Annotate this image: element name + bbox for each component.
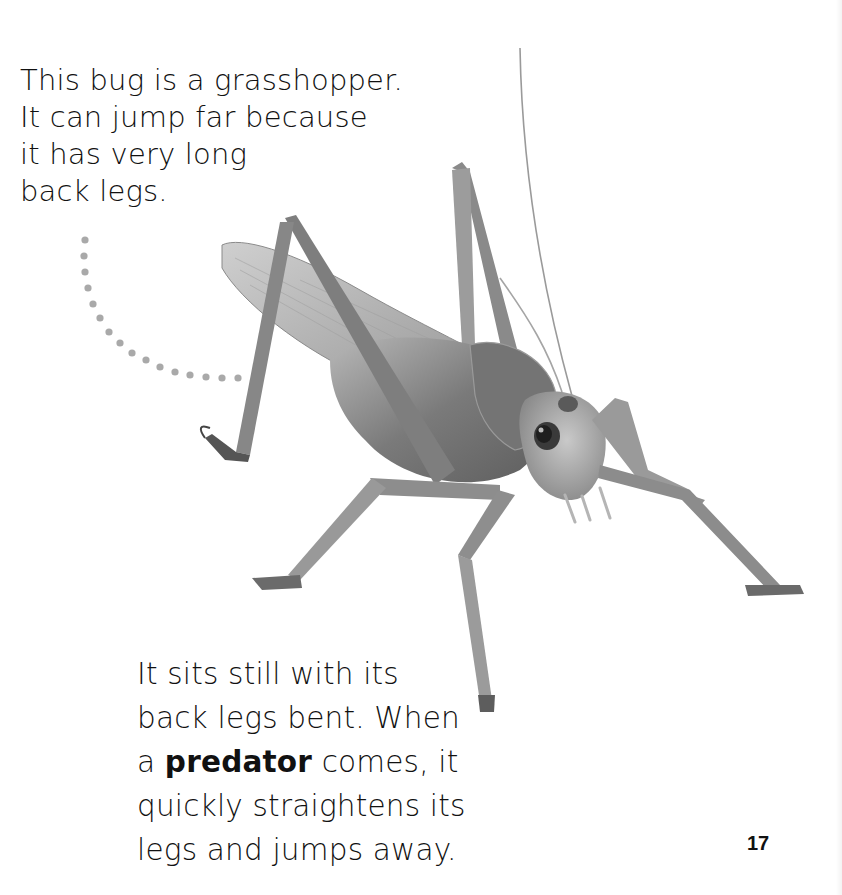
intro-paragraph: This bug is a grasshopper. It can jump f… bbox=[20, 62, 403, 210]
page-edge bbox=[836, 0, 842, 895]
intro-line: It can jump far because bbox=[20, 99, 403, 136]
intro-line: This bug is a grasshopper. bbox=[20, 62, 403, 99]
book-page: This bug is a grasshopper. It can jump f… bbox=[0, 0, 842, 895]
page-number: 17 bbox=[747, 832, 769, 855]
body-paragraph: It sits still with its back legs bent. W… bbox=[137, 652, 466, 872]
body-line: a predator comes, it bbox=[137, 740, 466, 784]
body-text: comes, it bbox=[312, 745, 458, 779]
dotted-pointer bbox=[80, 236, 241, 381]
body-line: quickly straightens its bbox=[137, 784, 466, 828]
body-line: It sits still with its bbox=[137, 652, 466, 696]
glossary-term-predator: predator bbox=[165, 745, 312, 779]
body-text: a bbox=[137, 745, 165, 779]
intro-line: back legs. bbox=[20, 173, 403, 210]
body-line: back legs bent. When bbox=[137, 696, 466, 740]
intro-line: it has very long bbox=[20, 136, 403, 173]
body-line: legs and jumps away. bbox=[137, 828, 466, 872]
